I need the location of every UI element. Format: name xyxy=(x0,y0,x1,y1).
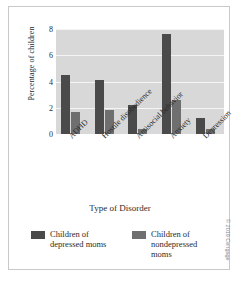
legend-label-line2: depressed moms xyxy=(50,239,106,249)
figure-frame: Percentage of children 02468 ADHDHostile… xyxy=(8,6,230,270)
legend-label-line3: moms xyxy=(151,249,172,259)
y-axis-tick-label: 6 xyxy=(49,51,53,60)
legend-label-nondepressed: Children of nondepressed moms xyxy=(151,229,197,259)
bar xyxy=(61,75,70,134)
legend-label-line1: Children of xyxy=(50,229,89,239)
legend: Children of depressed moms Children of n… xyxy=(31,229,219,259)
y-axis-title: Percentage of children xyxy=(27,4,36,124)
legend-label-depressed: Children of depressed moms xyxy=(50,229,106,249)
legend-item-nondepressed: Children of nondepressed moms xyxy=(132,229,219,259)
y-axis-tick-label: 4 xyxy=(49,77,53,86)
y-axis-tick-label: 8 xyxy=(49,25,53,34)
legend-swatch-icon-nondepressed xyxy=(132,231,146,239)
legend-swatch-icon-depressed xyxy=(31,231,45,239)
y-axis-tick-label: 0 xyxy=(49,130,53,139)
x-axis-title: Type of Disorder xyxy=(9,203,231,213)
legend-item-depressed: Children of depressed moms xyxy=(31,229,118,259)
bar xyxy=(162,34,171,134)
y-axis-tick-label: 2 xyxy=(49,103,53,112)
x-axis-tick-labels: ADHDHostile disobedienceAntisocial behav… xyxy=(56,134,224,200)
bar xyxy=(95,80,104,134)
legend-label-line2: nondepressed xyxy=(151,239,197,249)
copyright-credit: © 2019 Cengage xyxy=(225,219,231,261)
figure-container: Percentage of children 02468 ADHDHostile… xyxy=(0,0,247,283)
legend-label-line1: Children of xyxy=(151,229,190,239)
